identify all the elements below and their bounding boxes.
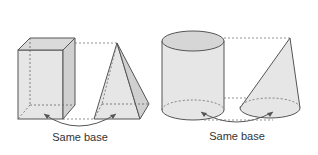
cone (240, 38, 300, 118)
cylinder (162, 31, 224, 120)
solids-diagram (0, 0, 318, 155)
caption-same-base-2: Same base (209, 130, 265, 142)
caption-same-base-1: Same base (52, 131, 108, 143)
rectangular-prism (18, 38, 75, 119)
pyramid (94, 43, 149, 119)
